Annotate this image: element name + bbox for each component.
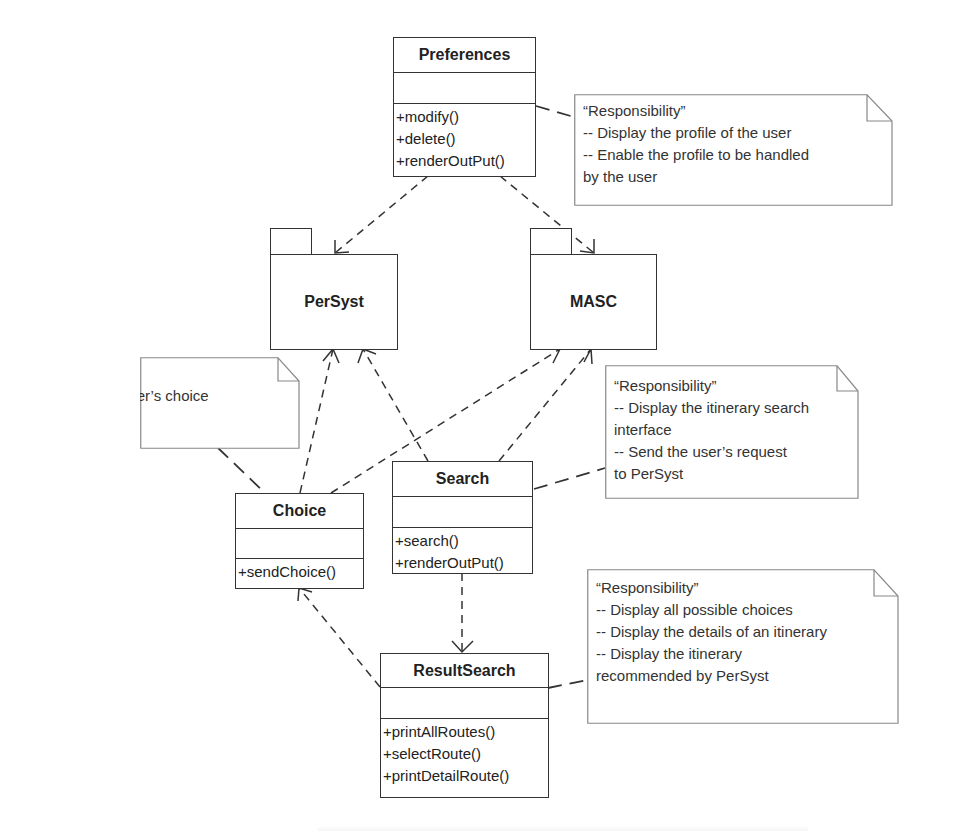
- note-search: “Responsibility” -- Display the itinerar…: [605, 365, 859, 499]
- note-line: to PerSyst: [614, 463, 809, 485]
- arrowhead-icon: [584, 349, 592, 364]
- note-resultsearch: “Responsibility” -- Display all possible…: [587, 569, 899, 724]
- note-line: -- Send the user’s request: [614, 441, 809, 463]
- note-line: -- Display the itinerary: [596, 643, 827, 665]
- note-line: “Responsibility”: [583, 100, 809, 122]
- dependency-search-persyst: [363, 349, 428, 461]
- class-operations: +modify() +delete() +renderOutPut(): [394, 104, 535, 172]
- class-operations: +printAllRoutes() +selectRoute() +printD…: [381, 719, 548, 787]
- package-masc[interactable]: MASC: [530, 228, 657, 350]
- note-line: -- Display the details of an itinerary: [596, 621, 827, 643]
- class-preferences[interactable]: Preferences +modify() +delete() +renderO…: [393, 37, 536, 177]
- figure-caption-clipped: [0, 826, 963, 831]
- note-line: -- Enable the profile to be handled: [583, 144, 809, 166]
- class-attributes: [393, 497, 532, 528]
- package-name: PerSyst: [270, 254, 398, 350]
- note-preferences: “Responsibility” -- Display the profile …: [574, 94, 893, 206]
- anchor-note-preferences: [536, 106, 574, 117]
- note-line: -- Display the profile of the user: [583, 122, 809, 144]
- operation: +selectRoute(): [383, 743, 548, 765]
- class-search[interactable]: Search +search() +renderOutPut(): [392, 461, 533, 574]
- dependency-choice-persyst: [300, 349, 333, 493]
- note-line: -- Display the itinerary search: [614, 397, 809, 419]
- class-name: Search: [393, 462, 532, 497]
- package-persyst[interactable]: PerSyst: [270, 228, 398, 350]
- uml-diagram: Preferences +modify() +delete() +renderO…: [0, 0, 963, 831]
- caption-remnant: [318, 826, 808, 831]
- class-attributes: [394, 73, 535, 104]
- anchor-note-search: [534, 468, 605, 489]
- note-choice: “Responsibility” -- Transmit the user’s …: [140, 357, 300, 449]
- dependency-search-masc: [499, 349, 591, 461]
- note-line: interface: [614, 419, 809, 441]
- operation: +renderOutPut(): [396, 150, 535, 172]
- anchor-note-resultsearch: [548, 680, 587, 688]
- class-name: Preferences: [394, 38, 535, 73]
- note-line: recommended by PerSyst: [596, 665, 827, 687]
- operation: +renderOutPut(): [395, 552, 532, 574]
- package-tab: [530, 228, 572, 255]
- class-attributes: [236, 529, 363, 559]
- class-resultsearch[interactable]: ResultSearch +printAllRoutes() +selectRo…: [380, 653, 549, 798]
- note-line: -- Display all possible choices: [596, 599, 827, 621]
- anchor-note-choice: [218, 448, 265, 493]
- operation: +modify(): [396, 106, 535, 128]
- class-choice[interactable]: Choice +sendChoice(): [235, 493, 364, 589]
- note-line: by the user: [583, 166, 809, 188]
- class-name: Choice: [236, 494, 363, 529]
- operation: +delete(): [396, 128, 535, 150]
- class-name: ResultSearch: [381, 654, 548, 688]
- class-attributes: [381, 688, 548, 719]
- class-operations: +search() +renderOutPut(): [393, 528, 532, 574]
- note-line: “Responsibility”: [596, 577, 827, 599]
- class-operations: +sendChoice(): [236, 559, 363, 583]
- operation: +search(): [395, 530, 532, 552]
- package-name: MASC: [530, 254, 657, 350]
- dependency-resultsearch-choice: [299, 588, 380, 687]
- operation: +printDetailRoute(): [383, 765, 548, 787]
- note-line: “Responsibility”: [614, 375, 809, 397]
- operation: +sendChoice(): [238, 561, 363, 583]
- arrowhead-icon: [358, 349, 376, 363]
- package-tab: [270, 228, 312, 255]
- operation: +printAllRoutes(): [383, 721, 548, 743]
